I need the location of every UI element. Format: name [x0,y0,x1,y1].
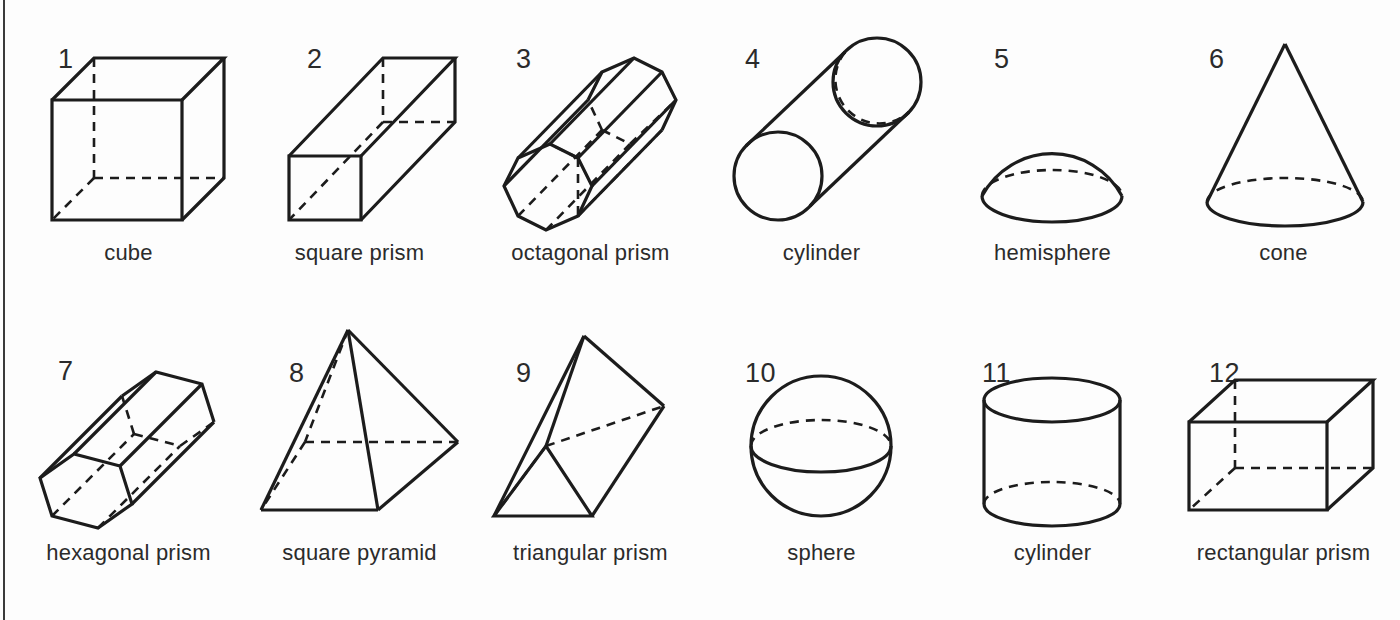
figure-label: hemisphere [936,240,1169,266]
figure-label: triangular prism [474,540,707,566]
figure-cell-octagonal-prism[interactable]: 3 [474,8,707,308]
hexagonal-prism-icon [12,318,245,548]
cone-icon [1167,8,1400,238]
sphere-icon [705,318,938,548]
figure-cell-hemisphere[interactable]: 5 hemisphere [936,8,1169,308]
figure-cell-hexagonal-prism[interactable]: 7 hexagonal prism [12,318,245,618]
cube-icon [12,8,245,238]
cylinder-upright-icon [936,318,1169,548]
square-prism-icon [243,8,476,238]
cylinder-diagonal-icon [705,8,938,238]
figure-cell-square-prism[interactable]: 2 square prism [243,8,476,308]
figure-cell-sphere[interactable]: 10 sphere [705,318,938,618]
figure-cell-triangular-prism[interactable]: 9 triangular prism [474,318,707,618]
figure-label: cube [12,240,245,266]
octagonal-prism-icon [474,8,707,238]
square-pyramid-icon [243,318,476,548]
figure-label: cylinder [705,240,938,266]
figure-cell-cylinder-diagonal[interactable]: 4 cylinder [705,8,938,308]
figure-label: cylinder [936,540,1169,566]
figure-label: rectangular prism [1167,540,1400,566]
figure-label: sphere [705,540,938,566]
figure-cell-rectangular-prism[interactable]: 12 rectangular prism [1167,318,1400,618]
figure-label: square prism [243,240,476,266]
figure-cell-cone[interactable]: 6 cone [1167,8,1400,308]
solids-chart-page: 1 cube 2 square prism [0,0,1400,620]
figure-label: square pyramid [243,540,476,566]
figure-label: hexagonal prism [12,540,245,566]
figure-label: octagonal prism [474,240,707,266]
triangular-prism-icon [474,318,707,548]
figure-label: cone [1167,240,1400,266]
figure-cell-cylinder-upright[interactable]: 11 cylinder [936,318,1169,618]
figure-cell-square-pyramid[interactable]: 8 square pyramid [243,318,476,618]
hemisphere-icon [936,8,1169,238]
figure-cell-cube[interactable]: 1 cube [12,8,245,308]
rectangular-prism-icon [1167,318,1400,548]
left-border-rule [3,0,5,620]
